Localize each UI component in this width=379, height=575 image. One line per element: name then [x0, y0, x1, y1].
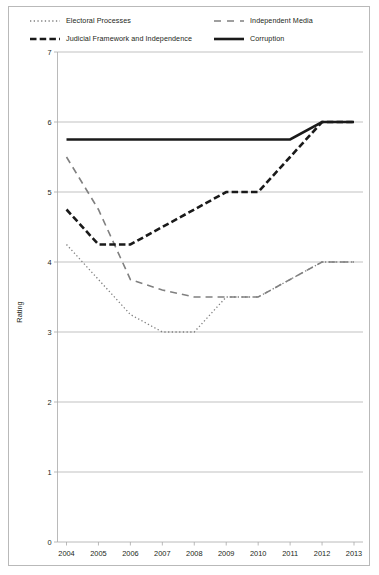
- y-tick-label: 0: [47, 538, 51, 547]
- y-tick-label: 6: [47, 118, 51, 127]
- y-tick-label: 5: [47, 188, 51, 197]
- x-tick-label: 2009: [218, 549, 234, 558]
- x-tick-label: 2011: [282, 549, 298, 558]
- x-axis-ticks: 2004200520062007200820092010201120122013: [58, 542, 362, 558]
- y-axis-ticks: 01234567: [47, 48, 57, 547]
- x-tick-label: 2005: [90, 549, 106, 558]
- y-tick-label: 3: [47, 328, 51, 337]
- y-tick-label: 7: [47, 48, 51, 57]
- x-tick-label: 2013: [346, 549, 362, 558]
- y-tick-label: 2: [47, 398, 51, 407]
- plot-area: 01234567 2004200520062007200820092010201…: [0, 0, 379, 575]
- y-axis-gridlines: [58, 52, 364, 472]
- data-series-group: [67, 122, 355, 332]
- x-tick-label: 2004: [58, 549, 74, 558]
- series-line-electoral-processes: [67, 245, 355, 333]
- x-tick-label: 2012: [314, 549, 330, 558]
- plot-svg: 01234567 2004200520062007200820092010201…: [0, 0, 379, 575]
- y-tick-label: 4: [47, 258, 51, 267]
- y-tick-label: 1: [47, 468, 51, 477]
- y-axis-title: Rating: [15, 301, 24, 322]
- series-line-independent-media: [67, 157, 355, 297]
- x-tick-label: 2010: [250, 549, 266, 558]
- x-tick-label: 2007: [154, 549, 170, 558]
- chart-container: Electoral Processes Judicial Framework a…: [0, 0, 379, 575]
- series-line-corruption: [67, 122, 355, 140]
- x-tick-label: 2008: [186, 549, 202, 558]
- x-tick-label: 2006: [122, 549, 138, 558]
